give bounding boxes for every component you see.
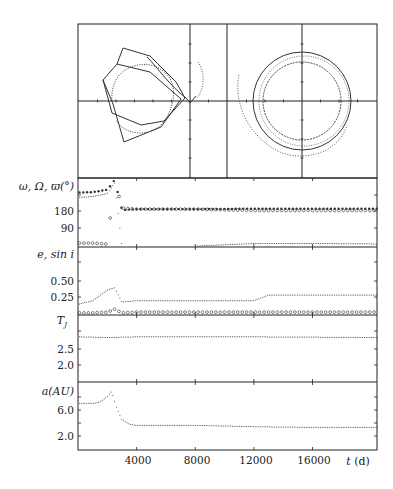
data-point (218, 425, 219, 426)
data-point (329, 311, 332, 314)
data-point (118, 337, 119, 338)
data-point (156, 336, 157, 337)
data-point (324, 311, 327, 314)
data-point (209, 425, 210, 426)
data-point (221, 244, 222, 245)
data-point (367, 427, 368, 428)
data-point (299, 337, 300, 338)
data-point (244, 300, 245, 301)
data-point (232, 311, 235, 314)
data-point (309, 243, 310, 244)
data-point (116, 198, 117, 199)
data-point (316, 427, 317, 428)
data-point (367, 295, 368, 296)
data-point (251, 243, 252, 244)
data-point (116, 291, 117, 292)
data-point (135, 300, 136, 301)
data-point (316, 311, 319, 314)
data-point (360, 243, 361, 244)
data-point (297, 295, 298, 296)
data-point (78, 242, 81, 245)
data-point (301, 243, 302, 244)
data-point (104, 243, 107, 246)
data-point (158, 425, 159, 426)
data-point (230, 426, 231, 427)
data-point (272, 295, 273, 296)
data-point (315, 295, 316, 296)
data-point (84, 403, 85, 404)
data-point (241, 311, 244, 314)
data-point (367, 243, 368, 244)
data-point (183, 300, 184, 301)
data-point (186, 425, 187, 426)
data-point (301, 337, 302, 338)
data-point (306, 427, 307, 428)
data-point (332, 243, 333, 244)
data-point (82, 191, 84, 193)
data-point (292, 243, 293, 244)
data-point (141, 425, 142, 426)
data-point (142, 425, 143, 426)
data-point (127, 422, 128, 423)
data-point (211, 336, 212, 337)
data-point (202, 336, 203, 337)
x-axis-label: t (d) (346, 455, 370, 468)
data-point (374, 337, 375, 338)
data-point (274, 243, 275, 244)
data-point (374, 295, 375, 296)
data-point (192, 300, 193, 301)
data-point (241, 300, 242, 301)
data-point (100, 337, 101, 338)
data-point (232, 244, 233, 245)
data-point (209, 300, 210, 301)
data-point (318, 427, 319, 428)
data-point (162, 425, 163, 426)
data-point (218, 336, 219, 337)
data-point (176, 300, 177, 301)
data-point (269, 295, 270, 296)
data-point (352, 295, 353, 296)
data-point (302, 243, 303, 244)
data-point (283, 427, 284, 428)
data-point (336, 243, 337, 244)
data-point (234, 300, 235, 301)
data-point (234, 244, 235, 245)
data-point (229, 244, 230, 245)
data-point (302, 427, 303, 428)
data-point (114, 182, 115, 183)
data-point (220, 245, 221, 246)
data-point (272, 426, 273, 427)
data-point (190, 336, 191, 337)
xtick-12000: 12000 (239, 454, 272, 466)
data-point (362, 427, 363, 428)
data-point (93, 196, 94, 197)
data-point (262, 243, 263, 244)
data-point (214, 300, 215, 301)
data-point (272, 209, 275, 212)
data-point (102, 337, 103, 338)
data-point (376, 208, 378, 210)
data-point (113, 180, 115, 182)
data-point (285, 337, 286, 338)
data-point (188, 300, 189, 301)
data-point (223, 426, 224, 427)
data-point (360, 337, 361, 338)
data-point (246, 336, 247, 337)
data-point (318, 243, 319, 244)
data-point (227, 426, 228, 427)
data-point (86, 302, 87, 303)
data-point (172, 425, 173, 426)
data-point (327, 295, 328, 296)
data-point (134, 424, 135, 425)
data-point (343, 295, 344, 296)
data-point (98, 402, 99, 403)
data-point (311, 243, 312, 244)
data-point (169, 425, 170, 426)
data-point (83, 242, 86, 245)
data-point (141, 300, 142, 301)
data-point (360, 427, 361, 428)
data-point (112, 288, 113, 289)
data-point (83, 403, 84, 404)
data-point (236, 300, 237, 301)
data-point (329, 243, 330, 244)
